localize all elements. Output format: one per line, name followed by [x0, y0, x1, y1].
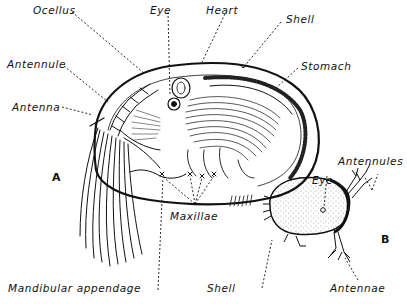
- label-shell-b: Shell: [207, 283, 236, 294]
- ostracod-illustration: [0, 0, 407, 304]
- label-antennule: Antennule: [7, 59, 66, 70]
- label-antennules: Antennules: [338, 156, 403, 167]
- label-ocellus: Ocellus: [33, 5, 76, 16]
- diagram-canvas: Ocellus Eye Heart Shell Stomach Antennul…: [0, 0, 407, 304]
- label-eye: Eye: [150, 5, 171, 16]
- panel-label-a: A: [52, 172, 61, 183]
- panel-a-drawing: [80, 63, 319, 266]
- label-shell: Shell: [286, 14, 315, 25]
- label-antennae: Antennae: [330, 283, 385, 294]
- label-antenna: Antenna: [12, 102, 60, 113]
- label-maxillae: Maxillae: [170, 211, 218, 222]
- panel-label-b: B: [381, 234, 389, 245]
- label-eye-b: Eye: [312, 175, 333, 186]
- label-mandibular-appendage: Mandibular appendage: [8, 283, 141, 294]
- label-heart: Heart: [206, 5, 238, 16]
- panel-a-leaders: [62, 12, 298, 290]
- label-stomach: Stomach: [301, 61, 352, 72]
